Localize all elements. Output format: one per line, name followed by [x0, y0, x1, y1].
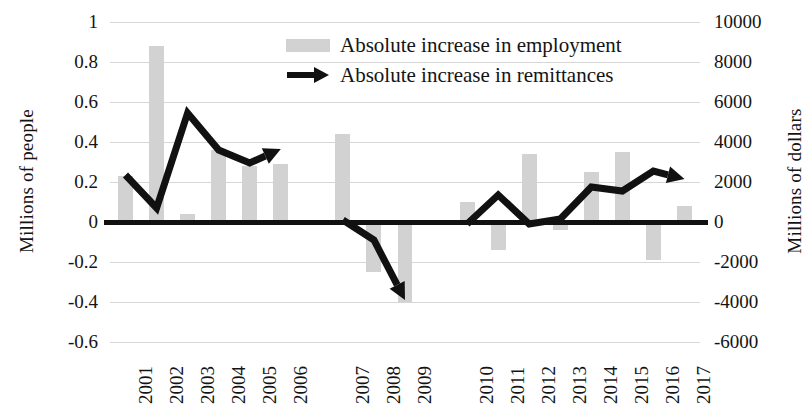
x-tick-label: 2006 — [290, 366, 312, 404]
legend-label-remittances: Absolute increase in remittances — [340, 63, 613, 88]
x-tick-label: 2010 — [476, 366, 498, 404]
x-tick-label: 2009 — [414, 366, 436, 404]
left-tick-label: -0.6 — [36, 332, 98, 351]
x-tick-label: 2012 — [538, 366, 560, 404]
arrow-line-icon — [286, 64, 330, 86]
gridline — [110, 342, 700, 343]
left-tick-label: 0.8 — [36, 52, 98, 71]
x-tick-label: 2016 — [662, 366, 684, 404]
arrow-head-icon — [666, 167, 685, 184]
left-tick-label: 0.6 — [36, 92, 98, 111]
left-tick-label: -0.4 — [36, 292, 98, 311]
x-tick-label: 2001 — [135, 366, 157, 404]
line-path — [126, 113, 266, 208]
right-tick-label: 10000 — [714, 12, 784, 31]
right-tick-label: 2000 — [714, 172, 784, 191]
right-axis-title: Millions of dollars — [784, 76, 806, 286]
right-tick-label: 8000 — [714, 52, 784, 71]
left-tick-label: 1 — [36, 12, 98, 31]
x-tick-label: 2002 — [166, 366, 188, 404]
left-tick-label: 0.4 — [36, 132, 98, 151]
line-path — [343, 220, 397, 285]
x-tick-label: 2011 — [507, 367, 529, 404]
x-tick-label: 2013 — [569, 366, 591, 404]
chart-legend: Absolute increase in employment Absolute… — [286, 30, 686, 90]
legend-item-remittances: Absolute increase in remittances — [286, 60, 686, 90]
left-tick-label: 0 — [36, 212, 98, 231]
chart-container: Millions of people Millions of dollars 1… — [0, 0, 811, 409]
x-tick-label: 2005 — [259, 366, 281, 404]
legend-label-employment: Absolute increase in employment — [340, 33, 622, 58]
right-tick-label: -4000 — [714, 292, 784, 311]
legend-item-employment: Absolute increase in employment — [286, 30, 686, 60]
line-path — [467, 171, 668, 224]
left-tick-label: -0.2 — [36, 252, 98, 271]
right-tick-label: -2000 — [714, 252, 784, 271]
left-tick-label: 0.2 — [36, 172, 98, 191]
right-tick-label: 4000 — [714, 132, 784, 151]
zero-axis-line — [104, 220, 708, 225]
x-tick-label: 2008 — [383, 366, 405, 404]
x-tick-label: 2015 — [631, 366, 653, 404]
x-tick-label: 2017 — [693, 366, 715, 404]
x-tick-label: 2014 — [600, 366, 622, 404]
right-tick-label: 6000 — [714, 92, 784, 111]
left-axis-title: Millions of people — [16, 76, 38, 286]
right-tick-label: -6000 — [714, 332, 784, 351]
right-tick-label: 0 — [714, 212, 784, 231]
bar-swatch-icon — [286, 39, 330, 52]
x-tick-label: 2004 — [228, 366, 250, 404]
x-tick-label: 2003 — [197, 366, 219, 404]
x-tick-label: 2007 — [352, 366, 374, 404]
